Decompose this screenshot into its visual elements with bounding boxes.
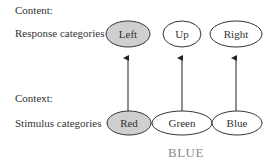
svg-text:Green: Green [169,117,196,129]
stimulus-word: BLUE [168,145,204,161]
diagram: Left Up Right Red Green Blue [0,0,275,161]
response-up: Up [163,21,201,47]
svg-text:Up: Up [175,28,189,40]
stimulus-green: Green [152,111,212,135]
svg-text:Left: Left [119,28,137,40]
response-right: Right [210,21,262,47]
svg-text:Blue: Blue [227,117,248,129]
stimulus-blue: Blue [212,111,262,135]
response-left: Left [106,21,150,47]
stimulus-red: Red [107,111,151,135]
svg-text:Red: Red [120,117,138,129]
svg-text:Right: Right [224,28,248,40]
